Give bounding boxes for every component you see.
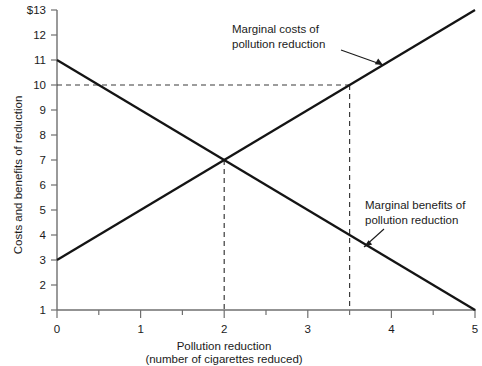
y-axis-title: Costs and benefits of reduction <box>12 96 24 255</box>
marginal-benefits-annotation-line1: Marginal benefits of <box>365 199 466 211</box>
y-tick-label-9: 9 <box>40 104 46 116</box>
marginal-benefits-annotation-line2: pollution reduction <box>365 214 458 226</box>
y-tick-label-5: 5 <box>40 204 46 216</box>
x-tick-label-1: 1 <box>137 323 143 335</box>
chart-figure: $13 12 11 10 9 8 7 6 5 4 3 2 1 0 1 2 <box>0 0 482 366</box>
x-axis-title: Pollution reduction <box>177 340 272 352</box>
x-tick-label-5: 5 <box>472 323 478 335</box>
marginal-costs-annotation-line2: pollution reduction <box>232 38 325 50</box>
y-tick-label-13: $13 <box>27 4 46 16</box>
chart-plot-area: $13 12 11 10 9 8 7 6 5 4 3 2 1 0 1 2 <box>0 0 482 366</box>
x-axis-ticks <box>57 310 475 318</box>
y-tick-label-6: 6 <box>40 179 46 191</box>
y-tick-label-4: 4 <box>40 229 47 241</box>
marginal-costs-annotation-line1: Marginal costs of <box>232 23 320 35</box>
marginal-costs-arrowhead-icon <box>375 59 383 65</box>
y-axis-ticks <box>51 10 57 310</box>
y-tick-label-11: 11 <box>34 54 46 66</box>
y-tick-label-12: 12 <box>33 29 46 41</box>
y-tick-label-2: 2 <box>40 279 46 291</box>
y-tick-label-1: 1 <box>40 304 46 316</box>
y-tick-label-7: 7 <box>40 154 46 166</box>
x-tick-label-4: 4 <box>388 323 395 335</box>
y-tick-label-3: 3 <box>40 254 46 266</box>
x-tick-label-2: 2 <box>221 323 227 335</box>
x-axis-subtitle: (number of cigarettes reduced) <box>145 353 302 365</box>
y-tick-label-10: 10 <box>33 79 46 91</box>
y-tick-label-8: 8 <box>40 129 46 141</box>
x-tick-label-0: 0 <box>54 323 60 335</box>
marginal-benefits-curve <box>57 60 475 310</box>
x-tick-label-3: 3 <box>305 323 311 335</box>
